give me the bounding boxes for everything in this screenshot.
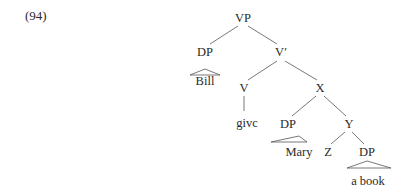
tree-edge-x-dp2 — [292, 96, 316, 116]
tree-node-dp3: DP — [359, 146, 375, 159]
tree-node-bill: Bill — [196, 75, 215, 88]
tree-node-give: givc — [236, 117, 258, 130]
tree-node-mary: Mary — [285, 146, 312, 159]
tree-edge-x-y — [324, 96, 346, 116]
tree-node-x: X — [315, 82, 324, 95]
tree-edge-vp-dp1 — [210, 26, 238, 44]
tree-edge-y-dp3 — [352, 132, 364, 144]
tree-node-abook: a book — [351, 175, 385, 188]
tree-edge-vbar-x — [285, 61, 317, 80]
tree-node-vp: VP — [235, 12, 251, 25]
tree-edge-y-z — [331, 132, 345, 144]
tree-node-y: Y — [344, 118, 353, 131]
tree-node-dp2: DP — [280, 118, 296, 131]
tree-node-vbar: V′ — [275, 46, 287, 59]
tree-edge-vbar-v — [248, 61, 277, 80]
tree-edges — [0, 0, 409, 191]
triangle-abook — [347, 161, 391, 168]
tree-node-v: V — [239, 82, 248, 95]
tree-node-dp1: DP — [197, 46, 213, 59]
tree-edge-vp-vbar — [248, 26, 277, 44]
triangle-mary — [271, 136, 307, 142]
tree-node-z: Z — [324, 146, 332, 159]
